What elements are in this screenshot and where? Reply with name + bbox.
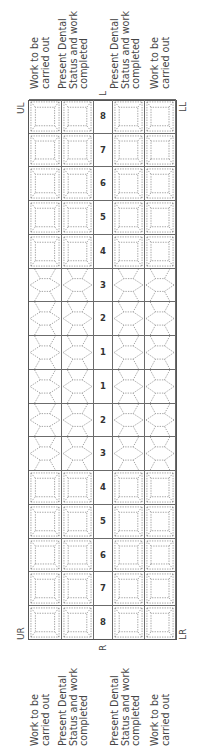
- upper-work-tooth-cell[interactable]: [29, 403, 62, 436]
- upper-work-tooth-cell[interactable]: [29, 436, 62, 470]
- lower-present-tooth-cell[interactable]: [113, 234, 145, 268]
- upper-work-tooth-cell[interactable]: [29, 335, 62, 369]
- lower-work-tooth-cell[interactable]: [145, 369, 176, 403]
- incisor-outline-icon: [145, 370, 175, 403]
- upper-present-tooth-cell[interactable]: [62, 403, 94, 436]
- lower-work-tooth-cell[interactable]: [145, 335, 176, 369]
- upper-work-tooth-cell[interactable]: [29, 133, 62, 166]
- tooth-number-cell: 2: [94, 301, 113, 335]
- upper-present-tooth-cell[interactable]: [62, 200, 94, 234]
- tooth-number-cell: 6: [94, 538, 113, 571]
- lower-present-tooth-cell[interactable]: [113, 571, 145, 605]
- tooth-number-cell: 7: [94, 571, 113, 605]
- tooth-number: 2: [100, 314, 106, 324]
- lower-present-tooth-cell[interactable]: [113, 99, 145, 133]
- molar-outline-icon: [145, 572, 175, 605]
- incisor-outline-icon: [62, 302, 93, 335]
- upper-present-tooth-cell[interactable]: [62, 605, 94, 639]
- tooth-number: 2: [100, 415, 106, 425]
- lower-work-tooth-cell[interactable]: [145, 166, 176, 200]
- upper-present-tooth-cell[interactable]: [62, 504, 94, 538]
- lower-work-tooth-cell[interactable]: [145, 470, 176, 504]
- label-lower-work-to-be-carried-out-right: Work to be carried out: [150, 694, 171, 746]
- upper-present-tooth-cell[interactable]: [62, 166, 94, 200]
- upper-present-tooth-cell[interactable]: [62, 335, 94, 369]
- upper-present-tooth-cell[interactable]: [62, 470, 94, 504]
- molar-outline-icon: [113, 606, 144, 639]
- lower-work-tooth-cell[interactable]: [145, 268, 176, 301]
- label-lower-present-status-right: Present Dental Status and work completed: [110, 668, 142, 746]
- upper-work-tooth-cell[interactable]: [29, 504, 62, 538]
- lower-work-tooth-cell[interactable]: [145, 301, 176, 335]
- tooth-number: 6: [100, 550, 106, 560]
- lower-present-tooth-cell[interactable]: [113, 369, 145, 403]
- incisor-outline-icon: [145, 404, 175, 436]
- upper-present-tooth-cell[interactable]: [62, 369, 94, 403]
- incisor-outline-icon: [145, 302, 175, 335]
- lower-present-tooth-cell[interactable]: [113, 335, 145, 369]
- lower-work-tooth-cell[interactable]: [145, 571, 176, 605]
- incisor-outline-icon: [29, 336, 61, 369]
- lower-present-tooth-cell[interactable]: [113, 268, 145, 301]
- upper-work-tooth-cell[interactable]: [29, 571, 62, 605]
- lower-work-tooth-cell[interactable]: [145, 605, 176, 639]
- upper-present-tooth-cell[interactable]: [62, 436, 94, 470]
- lower-work-tooth-cell[interactable]: [145, 234, 176, 268]
- lower-present-tooth-cell[interactable]: [113, 504, 145, 538]
- molar-outline-icon: [145, 134, 175, 166]
- molar-outline-icon: [113, 471, 144, 504]
- lower-work-tooth-cell[interactable]: [145, 133, 176, 166]
- incisor-outline-icon: [62, 269, 93, 301]
- upper-work-tooth-cell[interactable]: [29, 538, 62, 571]
- upper-work-tooth-cell[interactable]: [29, 369, 62, 403]
- lower-present-tooth-cell[interactable]: [113, 301, 145, 335]
- label-upper-work-to-be-carried-out-left: Work to be carried out: [30, 37, 51, 89]
- upper-present-tooth-cell[interactable]: [62, 571, 94, 605]
- lower-present-tooth-cell[interactable]: [113, 436, 145, 470]
- upper-work-tooth-cell[interactable]: [29, 99, 62, 133]
- lower-work-tooth-cell[interactable]: [145, 200, 176, 234]
- molar-outline-icon: [29, 100, 61, 133]
- upper-present-tooth-cell[interactable]: [62, 538, 94, 571]
- tooth-number: 8: [100, 112, 106, 122]
- tooth-number: 5: [100, 517, 106, 527]
- molar-outline-icon: [62, 572, 93, 605]
- upper-present-tooth-cell[interactable]: [62, 133, 94, 166]
- tooth-number: 5: [100, 213, 106, 223]
- upper-work-tooth-cell[interactable]: [29, 166, 62, 200]
- label-upper-present-status-left: Present Dental Status and work completed: [58, 11, 90, 89]
- upper-work-tooth-cell[interactable]: [29, 234, 62, 268]
- upper-work-tooth-cell[interactable]: [29, 200, 62, 234]
- tooth-number-cell: 5: [94, 200, 113, 234]
- upper-present-tooth-cell[interactable]: [62, 268, 94, 301]
- incisor-outline-icon: [29, 370, 61, 403]
- lower-present-tooth-cell[interactable]: [113, 538, 145, 571]
- tooth-grid: 8765432112345678: [28, 100, 177, 640]
- upper-present-tooth-cell[interactable]: [62, 301, 94, 335]
- incisor-outline-icon: [145, 269, 175, 301]
- lower-present-tooth-cell[interactable]: [113, 133, 145, 166]
- label-line: completed: [79, 11, 90, 89]
- upper-work-tooth-cell[interactable]: [29, 268, 62, 301]
- upper-present-tooth-cell[interactable]: [62, 99, 94, 133]
- tooth-number: 8: [100, 618, 106, 628]
- upper-work-tooth-cell[interactable]: [29, 470, 62, 504]
- molar-outline-icon: [62, 471, 93, 504]
- lower-work-tooth-cell[interactable]: [145, 403, 176, 436]
- incisor-outline-icon: [29, 404, 61, 436]
- label-line: Present Dental: [58, 668, 69, 746]
- lower-work-tooth-cell[interactable]: [145, 436, 176, 470]
- lower-work-tooth-cell[interactable]: [145, 504, 176, 538]
- lower-present-tooth-cell[interactable]: [113, 200, 145, 234]
- lower-present-tooth-cell[interactable]: [113, 470, 145, 504]
- lower-present-tooth-cell[interactable]: [113, 605, 145, 639]
- lower-work-tooth-cell[interactable]: [145, 538, 176, 571]
- upper-work-tooth-cell[interactable]: [29, 301, 62, 335]
- lower-work-tooth-cell[interactable]: [145, 99, 176, 133]
- label-line: carried out: [41, 37, 52, 89]
- lower-present-tooth-cell[interactable]: [113, 166, 145, 200]
- lower-present-tooth-cell[interactable]: [113, 403, 145, 436]
- upper-present-tooth-cell[interactable]: [62, 234, 94, 268]
- tooth-number: 6: [100, 179, 106, 189]
- upper-work-tooth-cell[interactable]: [29, 605, 62, 639]
